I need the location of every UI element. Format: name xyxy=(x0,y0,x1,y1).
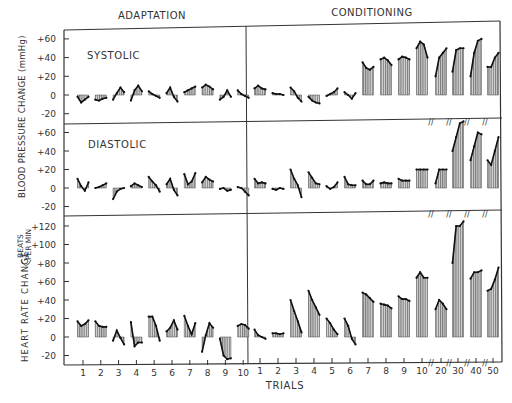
xtick-label: 5 xyxy=(151,368,157,378)
xtick-label: 50 xyxy=(487,366,499,376)
section-label-adaptation: ADAPTATION xyxy=(118,10,186,21)
bar xyxy=(471,270,482,337)
axis-break-mark: // xyxy=(482,210,488,219)
ytick-label: 0 xyxy=(50,333,56,343)
xtick-label: 4 xyxy=(311,366,317,376)
bar xyxy=(417,170,428,189)
chart-container: ADAPTATION CONDITIONING SYSTOLIC DIASTOL… xyxy=(0,0,512,403)
bar xyxy=(399,57,410,95)
ytick-label: -20 xyxy=(41,109,56,119)
axis-break-mark: // xyxy=(464,118,470,127)
panel-diastolic: +60+40+200-20 xyxy=(37,120,500,212)
ytick-label: +120 xyxy=(31,222,56,232)
ytick-label: +100 xyxy=(31,240,56,250)
chart-dynamic-layer: +60+40+200-20+60+40+200-20+120+100+80+60… xyxy=(31,34,499,378)
axis-break-mark: // xyxy=(482,118,488,127)
xtick-label: 8 xyxy=(383,366,389,376)
panel-systolic: +60+40+200-20 xyxy=(37,34,500,119)
xtick-label: 20 xyxy=(435,366,447,376)
xtick-label: 9 xyxy=(401,366,407,376)
ytick-label: +80 xyxy=(37,259,56,269)
bar xyxy=(488,268,499,337)
bar xyxy=(363,62,374,95)
ytick-label: +60 xyxy=(37,277,56,287)
axis-break-mark: // xyxy=(446,359,452,368)
ytick-label: +40 xyxy=(37,147,56,157)
xtick-label: 6 xyxy=(169,368,175,378)
section-label-conditioning: CONDITIONING xyxy=(331,7,413,18)
ytick-label: 0 xyxy=(50,184,56,194)
xtick-label: 2 xyxy=(275,366,281,376)
bar xyxy=(399,296,410,337)
xtick-label: 2 xyxy=(98,368,104,378)
xlabel-trials: TRIALS xyxy=(265,380,304,391)
ytick-label: +40 xyxy=(37,296,56,306)
ytick-label: +20 xyxy=(37,72,56,82)
axis-break-mark: // xyxy=(428,359,434,368)
ytick-label: +60 xyxy=(37,128,56,138)
axis-break-mark: // xyxy=(446,210,452,219)
bar xyxy=(381,304,392,337)
ytick-label: -20 xyxy=(41,351,56,361)
chart-svg: ADAPTATION CONDITIONING SYSTOLIC DIASTOL… xyxy=(0,0,512,403)
panel-title-systolic: SYSTOLIC xyxy=(87,50,140,61)
bar xyxy=(488,53,499,95)
x-axis: 123456789101234567891020304050 xyxy=(80,358,499,378)
xtick-label: 10 xyxy=(416,366,428,376)
panel-title-diastolic: DIASTOLIC xyxy=(88,139,147,150)
axis-break-mark: // xyxy=(428,210,434,219)
xtick-label: 8 xyxy=(205,368,211,378)
bar xyxy=(417,272,428,337)
xtick-label: 1 xyxy=(257,366,263,376)
ylabel-blood-pressure: BLOOD PRESSURE CHANGE (mmHg) xyxy=(17,35,27,198)
axis-break-mark: // xyxy=(464,359,470,368)
xtick-label: 5 xyxy=(329,366,335,376)
ylabel-heart-rate: HEART RATE CHANGE xyxy=(20,250,30,362)
xtick-label: 9 xyxy=(223,368,229,378)
panel-heart-rate: +120+100+80+60+40+200-20 xyxy=(31,220,499,361)
bar xyxy=(309,291,320,337)
xtick-label: 1 xyxy=(80,368,86,378)
xtick-label: 7 xyxy=(187,368,193,378)
ytick-label: +60 xyxy=(37,34,56,44)
panel-separator-1 xyxy=(64,118,502,124)
ytick-label: -20 xyxy=(41,202,56,212)
panel-separator-2 xyxy=(64,210,502,216)
xtick-label: 10 xyxy=(237,368,249,378)
xtick-label: 7 xyxy=(365,366,371,376)
xtick-label: 4 xyxy=(134,368,140,378)
axis-break-mark: // xyxy=(464,210,470,219)
xtick-label: 30 xyxy=(452,366,464,376)
xtick-label: 40 xyxy=(470,366,482,376)
axis-break-mark: // xyxy=(428,118,434,127)
xtick-label: 3 xyxy=(116,368,122,378)
xtick-label: 3 xyxy=(293,366,299,376)
ytick-label: +20 xyxy=(37,314,56,324)
ytick-label: +20 xyxy=(37,165,56,175)
ytick-label: 0 xyxy=(50,91,56,101)
bar xyxy=(453,48,464,95)
xtick-label: 6 xyxy=(347,366,353,376)
axis-break-mark: // xyxy=(446,118,452,127)
ytick-label: +40 xyxy=(37,53,56,63)
